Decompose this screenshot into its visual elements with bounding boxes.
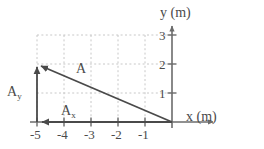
grid-lines-horizontal xyxy=(37,35,172,93)
y-axis-title: y (m) xyxy=(160,6,191,20)
vector-ay-label-sub: y xyxy=(17,91,22,101)
x-tick-label-neg4: -4 xyxy=(57,128,68,141)
y-tick-label-1: 1 xyxy=(159,87,166,100)
vector-ax-label-base: A xyxy=(61,103,71,118)
x-tick-label-neg1: -1 xyxy=(138,128,149,141)
vector-ax-label-sub: x xyxy=(71,110,76,120)
y-tick-label-3: 3 xyxy=(159,29,166,42)
x-axis-title: x (m) xyxy=(186,110,217,124)
y-tick-label-2: 2 xyxy=(159,58,166,71)
vector-ay-label: Ay xyxy=(7,85,22,99)
vector-ay-label-base: A xyxy=(7,84,17,99)
vector-ax-label: Ax xyxy=(61,104,76,118)
x-tick-label-neg3: -3 xyxy=(84,128,95,141)
vector-diagram-figure: x (m) y (m) -5 -4 -3 -2 -1 1 2 3 A Ay Ax xyxy=(0,0,264,149)
vector-a-label: A xyxy=(76,62,86,76)
grid-lines-vertical xyxy=(37,35,145,122)
x-tick-label-neg2: -2 xyxy=(111,128,122,141)
x-tick-label-neg5: -5 xyxy=(30,128,41,141)
